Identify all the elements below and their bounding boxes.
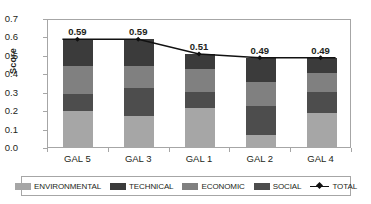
y-tick-label: 0.5 (0, 51, 18, 61)
y-tick-label: 0.6 (0, 32, 18, 42)
total-line-series (47, 19, 351, 148)
legend-item-technical[interactable]: TECHNICAL (110, 182, 173, 191)
y-tick-label: 0.1 (0, 125, 18, 135)
total-marker (257, 55, 262, 60)
legend-swatch-icon (15, 183, 31, 190)
legend-item-environmental[interactable]: ENVIRONMENTAL (15, 182, 101, 191)
legend-swatch-icon (182, 183, 198, 190)
legend-swatch-icon (110, 183, 126, 190)
legend-label: TECHNICAL (129, 182, 173, 191)
x-tick-mark (290, 148, 291, 152)
total-data-label: 0.51 (179, 41, 219, 52)
x-axis-label: GAL 2 (225, 153, 295, 164)
legend-item-social[interactable]: SOCIAL (254, 182, 302, 191)
x-axis-label: GAL 4 (286, 153, 356, 164)
x-tick-mark (169, 148, 170, 152)
total-marker (75, 37, 80, 42)
total-data-label: 0.59 (118, 26, 158, 37)
legend-label: TOTAL (332, 182, 357, 191)
y-tick-label: 0.7 (0, 14, 18, 24)
y-tick-label: 0.3 (0, 88, 18, 98)
legend-label: ENVIRONMENTAL (34, 182, 101, 191)
legend-label: SOCIAL (273, 182, 302, 191)
total-marker (318, 55, 323, 60)
x-tick-mark (229, 148, 230, 152)
stacked-bar-chart: Score 0.70.60.50.40.30.20.10.0 0.590.590… (0, 0, 371, 204)
x-tick-mark (108, 148, 109, 152)
legend-line-marker-icon (310, 182, 329, 190)
legend-item-economic[interactable]: ECONOMIC (182, 182, 244, 191)
x-tick-mark (351, 148, 352, 152)
y-tick-label: 0.0 (0, 143, 18, 153)
total-data-label: 0.59 (57, 26, 97, 37)
y-tick-label: 0.2 (0, 106, 18, 116)
total-marker (196, 51, 201, 56)
total-data-label: 0.49 (240, 45, 280, 56)
total-marker (136, 37, 141, 42)
legend-swatch-icon (254, 183, 270, 190)
legend-label: ECONOMIC (201, 182, 244, 191)
chart-legend: ENVIRONMENTALTECHNICALECONOMICSOCIALTOTA… (21, 176, 351, 196)
legend-item-total[interactable]: TOTAL (310, 182, 357, 191)
x-axis-label: GAL 1 (164, 153, 234, 164)
x-axis-label: GAL 5 (42, 153, 112, 164)
y-tick-label: 0.4 (0, 69, 18, 79)
total-data-label: 0.49 (301, 45, 341, 56)
x-axis-label: GAL 3 (103, 153, 173, 164)
x-tick-mark (47, 148, 48, 152)
